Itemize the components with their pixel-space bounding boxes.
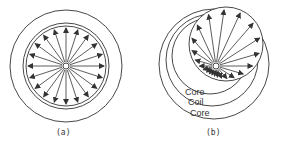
label-core-inner: Core [185, 87, 205, 97]
caption-a: (a) [56, 128, 70, 137]
figure-a [10, 10, 122, 122]
center-hole [63, 63, 69, 69]
center-hole-b [213, 63, 219, 69]
outer-circle [10, 10, 122, 122]
label-coil: Coil [188, 97, 204, 107]
radial-arrows-a [28, 28, 104, 104]
label-core-outer: Core [190, 108, 210, 118]
figure-b [159, 7, 269, 119]
caption-b: (b) [206, 128, 220, 137]
diagram-canvas: Core Coil Core [0, 0, 283, 146]
